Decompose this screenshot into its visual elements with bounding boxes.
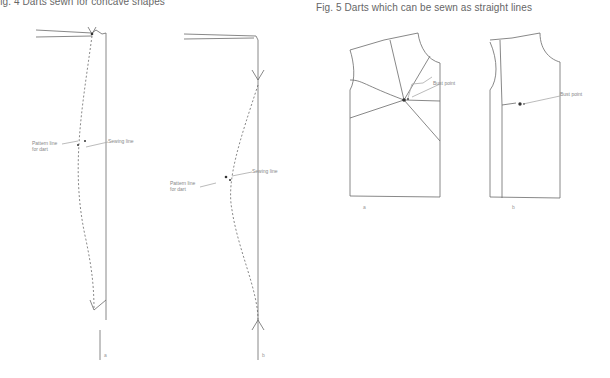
fig5a-bodice — [350, 33, 440, 197]
fig5b-sublabel: b — [512, 204, 515, 210]
fig4b-pattern-line-label: Pattern line for dart — [170, 180, 195, 192]
fig5b-bust-point-label: Bust point — [560, 91, 582, 97]
fig5a-bust-point-label: Bust point — [433, 80, 455, 86]
fig5b-bodice — [490, 33, 560, 198]
fig4b-sublabel: b — [262, 352, 265, 358]
diagram-canvas — [0, 0, 610, 378]
fig5a-sublabel: a — [363, 204, 366, 210]
fig4b-drawing — [184, 34, 264, 360]
fig4b-sewing-line-label: Sewing line — [252, 168, 278, 174]
fig4a-sublabel: a — [104, 352, 107, 358]
fig4a-drawing — [36, 27, 106, 360]
fig4a-sewing-line-label: Sewing line — [108, 138, 134, 144]
fig4a-pattern-line-label: Pattern line for dart — [32, 140, 57, 152]
